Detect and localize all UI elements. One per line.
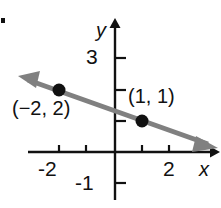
y-tick-label-3: 3	[86, 46, 98, 67]
y-axis-label: y	[96, 20, 106, 40]
data-point-minus2-2	[53, 84, 66, 97]
point-label-minus2-2: (−2, 2)	[12, 98, 70, 118]
y-tick-label--1: -1	[75, 172, 94, 193]
data-point-1-1	[136, 115, 149, 128]
point-label-1-1: (1, 1)	[128, 86, 175, 106]
x-tick-label-2: 2	[163, 158, 175, 179]
x-axis-label: x	[199, 159, 209, 179]
y-axis-arrow-icon	[110, 18, 121, 28]
x-tick-label--2: -2	[38, 158, 57, 179]
